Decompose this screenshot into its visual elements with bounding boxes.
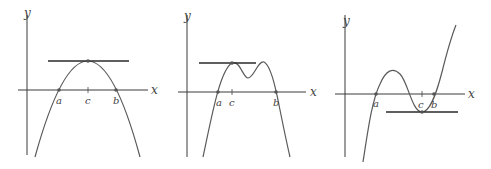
x-axis-label: x [310,85,317,99]
label-b: b [431,99,437,110]
y-axis-label: y [183,9,191,23]
y-axis-label: y [342,14,350,28]
label-a: a [373,98,379,109]
panel-2: y x a c b [178,9,317,157]
panel-3: y x a c b [335,14,475,162]
x-axis-label: x [151,83,158,97]
label-a: a [56,95,62,106]
y-axis-label: y [23,6,31,20]
label-b: b [113,95,119,106]
point-a [374,92,378,96]
x-axis-label: x [468,87,475,101]
label-c: c [229,97,235,108]
rolles-theorem-figure: y x a c b y x a c b y x [0,0,491,169]
point-c-on-curve [420,110,424,114]
point-c-on-curve [86,59,90,63]
label-c: c [418,99,424,110]
function-curve [203,62,290,157]
point-a [216,90,220,94]
function-curve [35,61,140,157]
label-c: c [85,95,91,106]
point-c-on-curve [230,61,234,65]
point-a [57,88,61,92]
label-a: a [216,97,222,108]
label-b: b [273,97,279,108]
point-b [274,90,278,94]
panel-1: y x a c b [18,6,158,157]
point-b [432,92,436,96]
point-b [114,88,118,92]
